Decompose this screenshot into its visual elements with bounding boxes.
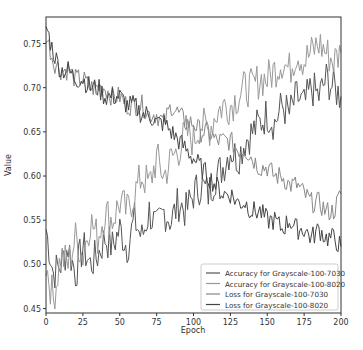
y-tick-label: 0.65: [23, 128, 41, 137]
y-tick-label: 0.50: [23, 260, 41, 269]
y-tick-label: 0.75: [23, 40, 41, 49]
x-tick-label: 125: [223, 318, 238, 327]
x-tick-label: 50: [115, 318, 125, 327]
chart-canvas: 0255075100125150175200 0.450.500.550.600…: [0, 0, 363, 350]
legend-label: Loss for Grayscale-100-7030: [225, 290, 329, 299]
y-tick-label: 0.55: [23, 216, 41, 225]
x-axis-label: Epoch: [181, 326, 206, 335]
series-line: [46, 64, 341, 288]
legend-label: Accuracy for Grayscale-100-8020: [225, 280, 346, 289]
y-axis-ticks: 0.450.500.550.600.650.700.75: [23, 40, 46, 314]
x-tick-label: 0: [43, 318, 48, 327]
legend-label: Accuracy for Grayscale-100-7030: [225, 269, 346, 278]
x-tick-label: 75: [152, 318, 162, 327]
line-chart: 0255075100125150175200 0.450.500.550.600…: [0, 0, 363, 350]
x-tick-label: 150: [260, 318, 275, 327]
series-line: [46, 26, 341, 251]
y-axis-label: Value: [4, 154, 13, 176]
legend: Accuracy for Grayscale-100-7030Accuracy …: [201, 264, 346, 310]
y-tick-label: 0.70: [23, 84, 41, 93]
y-tick-label: 0.45: [23, 305, 41, 314]
x-tick-label: 200: [333, 318, 348, 327]
x-tick-label: 25: [78, 318, 88, 327]
legend-label: Loss for Grayscale-100-8020: [225, 301, 329, 310]
y-tick-label: 0.60: [23, 172, 41, 181]
x-tick-label: 175: [296, 318, 311, 327]
x-axis-ticks: 0255075100125150175200: [43, 313, 348, 327]
